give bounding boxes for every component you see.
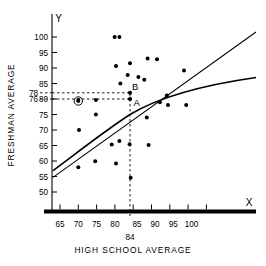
guide-label-x84: 84 (125, 233, 135, 242)
data-point (114, 64, 118, 68)
data-point (118, 82, 122, 86)
y-tick-label: 50 (39, 188, 49, 197)
x-axis-name: X (246, 197, 253, 208)
data-point (128, 142, 132, 146)
y-axis-name: Y (55, 13, 62, 24)
y-tick-label: 60 (39, 157, 49, 166)
data-point (129, 176, 133, 180)
y-tick-label: 100 (34, 33, 48, 42)
marked-point-a-label: A (134, 97, 141, 108)
data-point (114, 161, 118, 165)
y-tick-label: 55 (39, 173, 49, 182)
x-tick-label: 70 (74, 220, 84, 229)
y-tick-label: 85 (39, 80, 49, 89)
x-tick-label: 95 (169, 220, 179, 229)
x-tick-label: 75 (92, 220, 102, 229)
data-point (94, 98, 98, 102)
y-tick-label: 65 (39, 142, 49, 151)
data-point (110, 143, 114, 147)
y-tick-label: 75 (39, 111, 49, 120)
data-point (158, 100, 162, 104)
y-tick-label: 95 (39, 49, 49, 58)
data-point (128, 61, 132, 65)
data-point (165, 93, 169, 97)
marked-point-a (128, 97, 132, 101)
y-tick-label: 70 (39, 126, 49, 135)
marked-point-b-label: B (132, 81, 138, 92)
x-tick-label: 80 (110, 220, 120, 229)
data-point (155, 57, 159, 61)
y-axis-title: FRESHMAN AVERAGE (6, 63, 16, 166)
plot-canvas: 100 95 90 85 80 75 70 65 60 55 50 65 (0, 0, 266, 266)
data-point (182, 68, 186, 72)
x-tick-label: 100 (185, 220, 199, 229)
data-point (184, 103, 188, 107)
data-point (166, 103, 170, 107)
x-tick-label: 65 (55, 220, 65, 229)
data-point (136, 75, 140, 79)
y-tick-label: 80 (39, 95, 49, 104)
x-axis-title: HIGH SCHOOL AVERAGE (74, 245, 191, 255)
data-point (76, 165, 80, 169)
guide-label-y76: 76 (29, 95, 39, 104)
data-point (146, 57, 150, 61)
data-point (147, 143, 151, 147)
x-tick-label: 85 (132, 220, 142, 229)
data-point (93, 159, 97, 163)
x-tick-label: 90 (150, 220, 160, 229)
data-point (145, 116, 149, 120)
y-tick-label: 90 (39, 64, 49, 73)
data-point (126, 73, 130, 77)
data-point (77, 128, 81, 132)
data-point (94, 113, 98, 117)
scatter-plot-figure: 100 95 90 85 80 75 70 65 60 55 50 65 (0, 0, 266, 266)
data-point (142, 78, 146, 82)
data-point (117, 35, 121, 39)
data-point (117, 139, 121, 143)
data-point (113, 35, 117, 39)
x-axis-bar (44, 210, 256, 214)
